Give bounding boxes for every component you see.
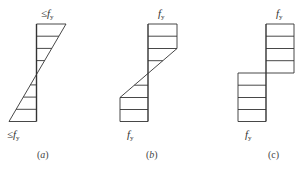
diagram-c-fully-plastic (238, 24, 294, 122)
stress-distribution-figure (0, 0, 304, 170)
label-c-bottom: fy (245, 129, 252, 142)
diagram-a-elastic (9, 24, 66, 122)
label-subscript: y (130, 134, 134, 142)
label-b-bottom: fy (127, 129, 134, 142)
caption-letter: c (271, 149, 275, 160)
caption-letter: a (40, 149, 45, 160)
label-b-top: fy (158, 8, 165, 21)
label-a-top: ≤fy (41, 8, 54, 21)
caption-a: (a) (37, 150, 49, 160)
label-subscript: y (248, 134, 252, 142)
label-subscript: y (279, 13, 283, 21)
label-subscript: y (161, 13, 165, 21)
caption-b: (b) (146, 150, 158, 160)
outline-diagonal (9, 24, 66, 122)
caption-letter: b (149, 149, 154, 160)
diagram-b-elastic-plastic (120, 24, 177, 122)
label-subscript: y (50, 13, 54, 21)
label-c-top: fy (276, 8, 283, 21)
label-a-bottom: ≤fy (7, 129, 20, 142)
caption-c: (c) (268, 150, 279, 160)
label-subscript: y (16, 134, 20, 142)
